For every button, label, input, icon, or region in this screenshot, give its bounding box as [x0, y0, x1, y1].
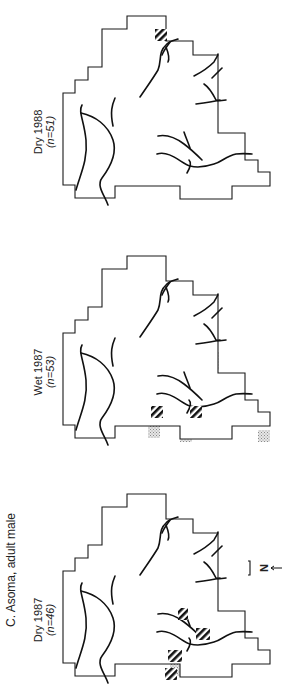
hatched-cells — [155, 29, 167, 41]
hatched-cell — [178, 608, 188, 620]
map-label-season: Dry 1988 — [32, 110, 44, 155]
map-label-n: (n=51) — [44, 116, 56, 148]
figure: Dry 1988 (n=51) Wet 1987 (n=53) Dry 1987… — [0, 0, 287, 695]
map-label-n: (n=46) — [44, 604, 56, 636]
hatched-cell — [151, 406, 163, 418]
stipple-cell — [148, 426, 160, 438]
map-dry-1987 — [63, 494, 270, 683]
map-label-season: Dry 1987 — [32, 598, 44, 643]
hatched-cell — [165, 668, 177, 680]
map-wet-1987 — [63, 256, 270, 445]
hatched-cell — [168, 650, 182, 662]
map-dry-1988 — [63, 16, 270, 205]
hatched-cell — [196, 628, 210, 640]
north-label: N — [258, 564, 270, 572]
hatched-cell — [190, 406, 202, 418]
map-label-n: (n=53) — [44, 356, 56, 388]
stipple-cell — [258, 430, 270, 442]
map-label-season: Wet 1987 — [32, 349, 44, 396]
panel-title: C. Asoma, adult male — [4, 513, 18, 627]
hatched-cell — [155, 29, 167, 41]
north-arrow: N — [248, 561, 282, 575]
